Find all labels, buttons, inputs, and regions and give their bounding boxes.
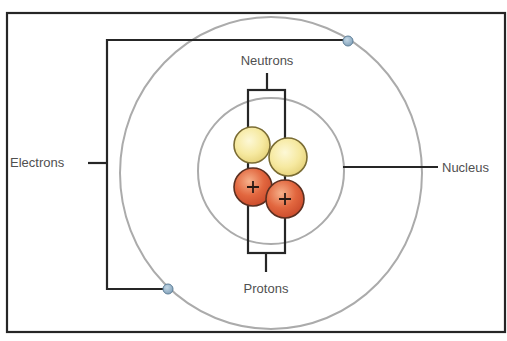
neutron-particle <box>234 127 270 163</box>
electron-particle <box>163 284 173 294</box>
electrons-bracket <box>107 40 343 289</box>
proton-particle <box>266 180 304 218</box>
electron-particle <box>343 36 353 46</box>
neutrons-label: Neutrons <box>241 53 294 68</box>
atom-diagram: Neutrons Protons Electrons Nucleus <box>0 0 507 341</box>
electrons-label: Electrons <box>10 155 65 170</box>
nucleus-label: Nucleus <box>442 160 489 175</box>
inner-shell <box>198 98 344 244</box>
neutron-particle <box>269 138 307 176</box>
protons-label: Protons <box>244 281 289 296</box>
